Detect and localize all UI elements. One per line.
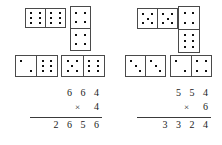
domino-pip [184,22,186,24]
domino-half-6-c [36,56,57,76]
domino-pip [171,13,173,15]
domino-pip [50,60,52,62]
domino-pip [159,70,161,72]
domino-pip [205,60,207,62]
domino-pip [39,22,41,24]
domino-pip [75,21,77,23]
domino-pip [151,22,153,24]
domino-pip [142,13,144,15]
domino-pip [50,22,52,24]
domino-half-4-d [191,56,212,76]
left-multiplication-problem: 6 6 4 × 4 2 6 5 6 [30,88,102,133]
domino-4-4 [70,6,91,51]
domino-pip [84,43,86,45]
domino-pip [155,65,157,67]
domino-pip [42,65,44,67]
domino-pip [97,70,99,72]
domino-pip [184,46,186,48]
domino-half-4-a [71,7,90,28]
domino-pip [75,12,77,14]
right-product: 3 3 2 4 [163,120,212,130]
domino-pip [75,43,77,45]
domino-pip [130,60,132,62]
domino-half-6-d [83,56,105,76]
domino-pip [75,34,77,36]
domino-half-5-a [62,56,83,76]
domino-pip [59,22,61,24]
domino-pip [39,12,41,14]
domino-pip [135,65,137,67]
domino-pip [76,70,78,72]
right-multiplicand: 5 5 4 [176,88,211,98]
domino-pip [192,46,194,48]
domino-pip [67,70,69,72]
domino-pip [142,22,144,24]
domino-2-4 [170,55,212,77]
left-operator: × [75,103,80,112]
product-row: 2 6 5 6 [30,120,102,133]
product-row: 3 3 2 4 [137,120,211,133]
multiplicand-row: 6 6 4 [30,88,102,102]
domino-pip [59,12,61,14]
multiplier-row: × 4 [30,102,102,116]
domino-pip [88,65,90,67]
domino-pip [84,21,86,23]
domino-half-3-b [145,56,165,76]
domino-pip [42,70,44,72]
domino-pip [192,22,194,24]
domino-pip [150,60,152,62]
domino-half-6-b [45,9,65,27]
domino-pip [97,60,99,62]
left-multiplicand: 6 6 4 [67,88,102,98]
domino-half-4-b [71,28,90,50]
domino-pip [50,65,52,67]
domino-pip [76,60,78,62]
domino-pip [88,60,90,62]
multiplier-row: × 6 [137,102,211,116]
domino-half-5-b [138,9,157,28]
domino-half-2-a [16,56,36,76]
domino-pip [171,22,173,24]
domino-half-5-c [157,9,177,28]
domino-pip [184,34,186,36]
domino-pip [192,40,194,42]
domino-pip [139,70,141,72]
domino-pip [192,34,194,36]
domino-pip [151,13,153,15]
domino-pip [162,13,164,15]
right-multiplication-problem: 5 5 4 × 6 3 3 2 4 [137,88,211,133]
domino-pip [147,18,149,20]
domino-pip [59,17,61,19]
domino-half-6-e [179,29,199,52]
domino-4-6 [178,6,200,53]
domino-half-6-a [26,9,45,27]
domino-5-6 [61,55,105,77]
domino-pip [42,60,44,62]
domino-pip [39,17,41,19]
left-product: 2 6 5 6 [54,120,103,130]
worksheet-page: 6 6 4 × 4 2 6 5 6 [0,0,222,145]
right-multiplier: 6 [203,102,211,112]
domino-6-6 [25,8,66,28]
domino-pip [162,22,164,24]
domino-pip [205,70,207,72]
domino-pip [30,12,32,14]
left-answer-rule [30,117,102,118]
domino-pip [184,70,186,72]
domino-pip [67,60,69,62]
domino-pip [184,12,186,14]
domino-2-6 [15,55,58,77]
domino-5-5 [137,8,178,29]
domino-half-3-a [126,56,145,76]
domino-pip [97,65,99,67]
domino-pip [88,70,90,72]
domino-pip [175,60,177,62]
domino-pip [30,17,32,19]
domino-3-3 [125,55,166,77]
domino-pip [196,60,198,62]
domino-pip [71,65,73,67]
domino-pip [30,22,32,24]
left-multiplier: 4 [94,102,102,112]
domino-pip [50,70,52,72]
right-operator: × [184,103,189,112]
